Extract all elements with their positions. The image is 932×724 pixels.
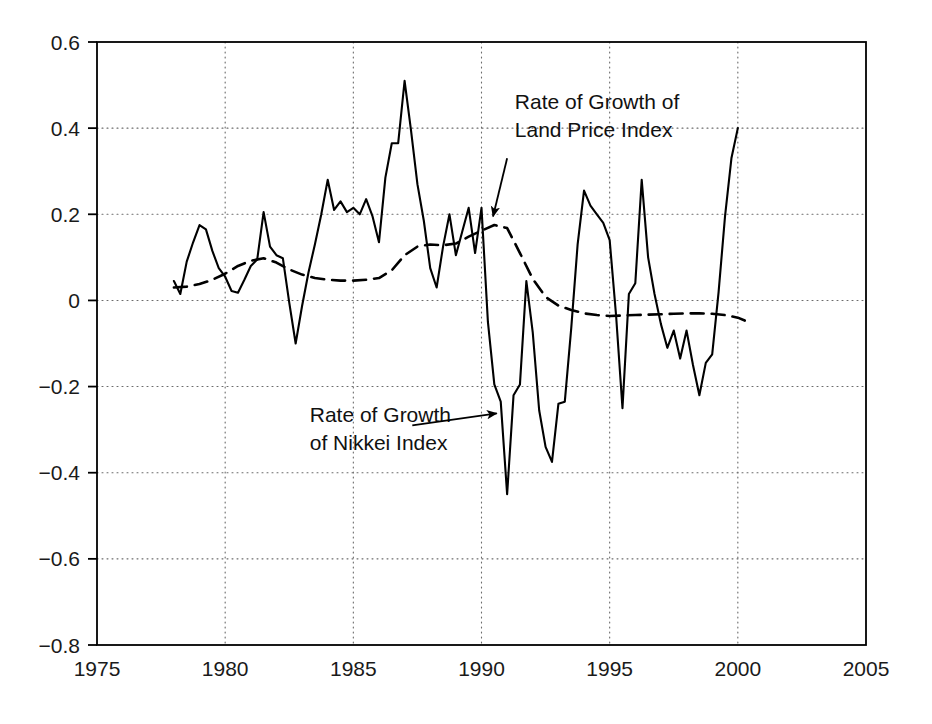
x-tick-label: 1985 bbox=[330, 657, 377, 680]
chart-plot-area: 0.60.40.20−0.2−0.4−0.6−0.819751980198519… bbox=[0, 0, 932, 724]
x-tick-label: 2000 bbox=[714, 657, 761, 680]
y-tick-label: 0.2 bbox=[51, 203, 80, 226]
y-tick-label: 0.4 bbox=[51, 117, 81, 140]
chart-figure: 0.60.40.20−0.2−0.4−0.6−0.819751980198519… bbox=[0, 0, 932, 724]
y-tick-label: 0.6 bbox=[51, 31, 80, 54]
y-tick-label: −0.2 bbox=[39, 375, 80, 398]
chart-background bbox=[0, 0, 932, 724]
y-tick-label: −0.4 bbox=[39, 461, 81, 484]
y-tick-label: 0 bbox=[68, 289, 80, 312]
x-tick-label: 2005 bbox=[843, 657, 890, 680]
x-tick-label: 1975 bbox=[74, 657, 121, 680]
x-tick-label: 1980 bbox=[202, 657, 249, 680]
y-tick-label: −0.8 bbox=[39, 634, 80, 657]
x-tick-label: 1990 bbox=[458, 657, 505, 680]
x-tick-label: 1995 bbox=[586, 657, 633, 680]
y-tick-label: −0.6 bbox=[39, 547, 80, 570]
